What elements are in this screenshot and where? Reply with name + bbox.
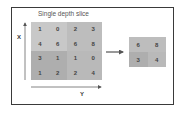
input-matrix-cell: 4 <box>31 37 49 52</box>
input-matrix-cell: 2 <box>49 66 67 81</box>
output-matrix-cell: 8 <box>148 37 167 52</box>
output-matrix-cell: 3 <box>129 52 148 67</box>
output-matrix-cell: 4 <box>148 52 167 67</box>
input-matrix-cell: 2 <box>67 22 85 37</box>
input-matrix-cell: 3 <box>84 22 102 37</box>
input-matrix-cell: 4 <box>84 66 102 81</box>
input-matrix-cell: 6 <box>67 37 85 52</box>
input-matrix-cell: 2 <box>67 66 85 81</box>
output-matrix: 6834 <box>129 37 166 67</box>
input-matrix-cell: 1 <box>31 22 49 37</box>
output-matrix-cell: 6 <box>129 37 148 52</box>
input-matrix-cell: 1 <box>49 51 67 66</box>
input-matrix-cell: 1 <box>31 66 49 81</box>
input-matrix-cell: 3 <box>31 51 49 66</box>
input-matrix-cell: 6 <box>49 37 67 52</box>
input-matrix: 1023466831101224 <box>31 22 102 80</box>
input-matrix-cell: 8 <box>84 37 102 52</box>
input-matrix-cell: 0 <box>84 51 102 66</box>
input-matrix-cell: 1 <box>67 51 85 66</box>
input-matrix-cell: 0 <box>49 22 67 37</box>
